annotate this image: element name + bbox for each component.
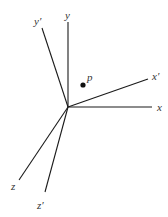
point-p-label: p: [86, 71, 93, 83]
y-prime-axis-line: [42, 28, 68, 107]
x-axis-label: x: [156, 101, 162, 113]
z-prime-axis-line: [45, 107, 68, 192]
axis-labels: yy′xx′zz′: [10, 9, 162, 211]
x-prime-axis-label: x′: [151, 70, 160, 82]
axis-lines: [19, 22, 152, 192]
axes-figure: yy′xx′zz′ p: [0, 0, 168, 217]
x-prime-axis-line: [68, 79, 148, 107]
coordinate-diagram: yy′xx′zz′ p: [0, 0, 168, 217]
z-axis-label: z: [10, 180, 16, 192]
z-axis-line: [19, 107, 68, 180]
y-prime-axis-label: y′: [33, 15, 42, 27]
z-prime-axis-label: z′: [36, 199, 44, 211]
point-p: [80, 82, 85, 87]
y-axis-label: y: [64, 9, 70, 21]
